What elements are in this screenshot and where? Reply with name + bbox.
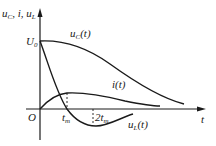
y-axis-arrow-icon [38,8,43,17]
tick-label-tm: tm [62,111,70,125]
origin-label: O [28,111,36,123]
u0-label: U0 [26,35,38,49]
rlc-discharge-diagram: uC, i, uL U0 O t tm 2tm uC(t) i(t) uL(t) [0,0,216,146]
i-curve [40,93,160,109]
tick-label-2tm: 2tm [95,111,109,125]
x-axis-arrow-icon [197,107,206,112]
x-axis-label: t [201,113,205,125]
ul-curve-label: uL(t) [128,118,148,132]
uc-curve-label: uC(t) [70,27,91,41]
i-curve-label: i(t) [112,78,126,91]
y-axis-label: uC, i, uL [2,7,36,21]
